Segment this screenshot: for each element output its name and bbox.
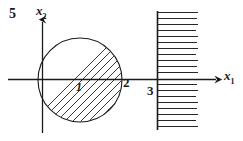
figure-number-label: 5 (9, 7, 16, 21)
circle-center-label: 1 (76, 81, 82, 93)
y-axis-label: x2 (36, 4, 47, 21)
hatched-halfplane (157, 11, 198, 130)
figure-canvas (0, 0, 243, 141)
circle-right-intercept-label: 2 (123, 76, 130, 89)
y-axis-label-subscript: 2 (43, 12, 47, 21)
halfplane-hatching (157, 13, 198, 127)
math-figure: 5 x2 x1 1 2 3 (0, 0, 243, 141)
x-axis-label: x1 (224, 69, 235, 86)
hatched-disk (30, 16, 138, 141)
halfplane-boundary-label: 3 (147, 84, 154, 97)
x-axis-label-subscript: 1 (231, 77, 235, 86)
